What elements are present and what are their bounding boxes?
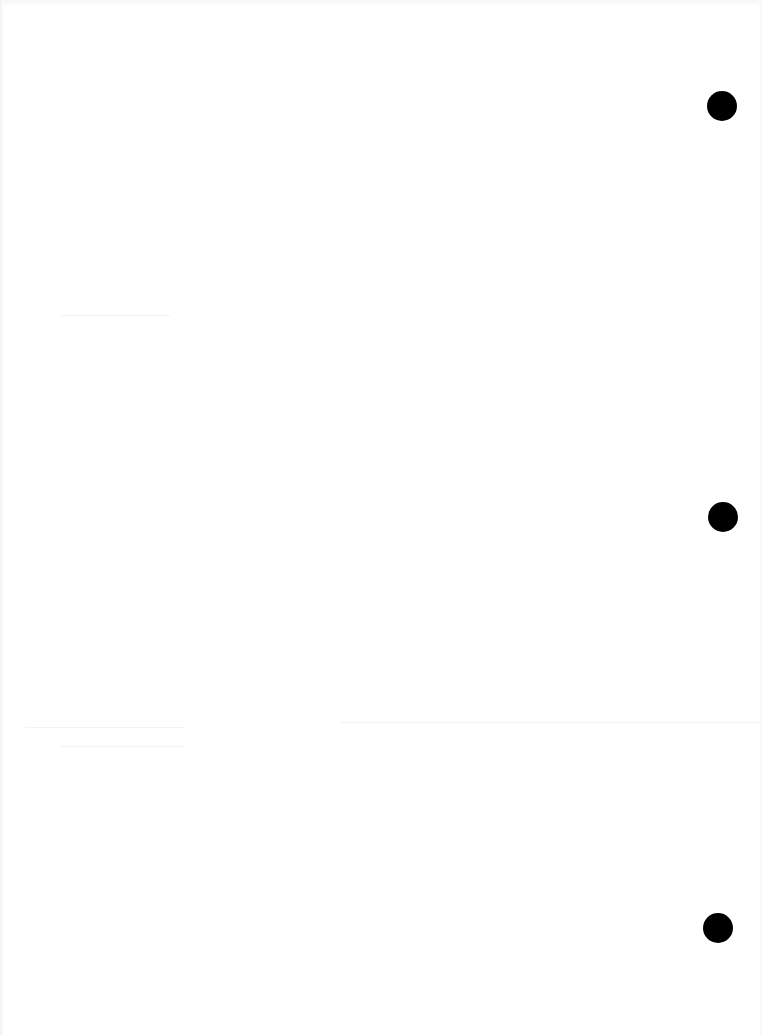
faint-scan-line [60,746,185,747]
binder-punch-hole-bottom [703,913,733,943]
faint-scan-line [340,722,760,723]
faint-scan-line [25,727,185,728]
scanned-page [0,0,762,1035]
page-top-edge-shadow [0,0,762,6]
binder-punch-hole-middle [708,502,738,532]
page-left-edge-shadow [0,0,4,1035]
binder-punch-hole-top [707,91,737,121]
faint-scan-line [60,315,170,316]
